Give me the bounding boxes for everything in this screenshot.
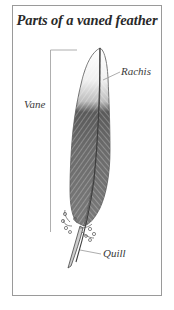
vane-label: Vane <box>24 98 45 110</box>
quill-leader-line <box>80 250 101 254</box>
rachis-label: Rachis <box>121 65 151 77</box>
quill-label: Quill <box>103 247 126 259</box>
feather-illustration <box>0 0 174 310</box>
